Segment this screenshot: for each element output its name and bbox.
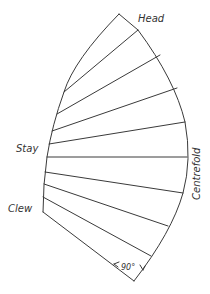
centrefold-label: Centrefold bbox=[191, 147, 202, 200]
sail-diagram: 90° Head Stay Clew Centrefold bbox=[0, 0, 210, 294]
seam-line bbox=[45, 172, 183, 193]
arrow-right-icon bbox=[140, 265, 145, 270]
angle-label: 90° bbox=[121, 263, 135, 272]
clew-label: Clew bbox=[8, 203, 33, 214]
seam-lines bbox=[43, 30, 187, 256]
stay-label: Stay bbox=[16, 143, 39, 154]
left-edge-curve bbox=[43, 14, 119, 212]
seam-line bbox=[52, 88, 177, 131]
seam-line bbox=[64, 30, 138, 92]
centrefold-arc bbox=[119, 14, 188, 281]
seam-line bbox=[44, 184, 168, 226]
head-label: Head bbox=[138, 13, 165, 24]
seam-line bbox=[43, 197, 151, 256]
right-angle-marker: 90° bbox=[114, 262, 145, 272]
